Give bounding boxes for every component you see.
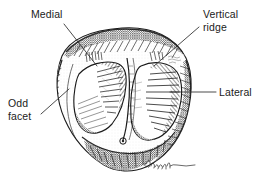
label-medial: Medial xyxy=(31,8,63,21)
label-odd-facet: Odd facet xyxy=(8,97,31,122)
label-lateral: Lateral xyxy=(219,86,252,99)
label-vertical-ridge: Vertical ridge xyxy=(203,8,238,33)
